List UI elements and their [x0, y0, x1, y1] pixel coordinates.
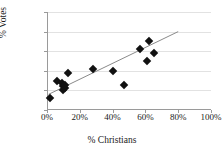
x-axis-line — [47, 109, 211, 110]
data-point — [149, 49, 157, 57]
x-axis-title: % Christians — [0, 135, 224, 145]
data-point — [64, 69, 72, 77]
gridline — [47, 32, 211, 33]
x-tick-label: 100% — [191, 113, 224, 122]
plot-area: 0%10%20%30%40%50% 0%20%40%60%80%100% — [47, 12, 211, 110]
data-point — [144, 37, 152, 45]
data-point — [108, 67, 116, 75]
data-point — [89, 65, 97, 73]
y-axis-title: % Votes — [0, 7, 8, 38]
data-point — [136, 45, 144, 53]
gridline — [47, 12, 211, 13]
trendline — [47, 12, 211, 110]
data-point — [143, 57, 151, 65]
data-point — [120, 80, 128, 88]
scatter-chart: % Votes % Christians 0%10%20%30%40%50% 0… — [0, 0, 224, 153]
gridline — [47, 51, 211, 52]
gridline — [47, 90, 211, 91]
